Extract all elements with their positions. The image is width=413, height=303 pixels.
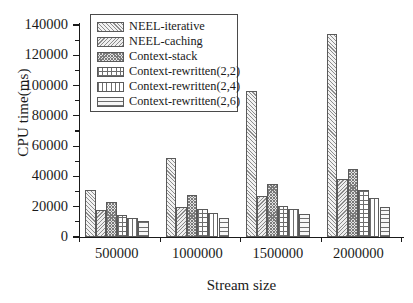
chart-legend: NEEL-iterativeNEEL-cachingContext-stackC…	[90, 14, 238, 112]
legend-label: Context-rewritten(2,2)	[129, 65, 240, 77]
bar-context-stack-500000	[106, 202, 117, 237]
legend-swatch-icon	[97, 52, 124, 62]
bar-context-rewritten-2-4--1500000	[288, 209, 299, 237]
bar-context-rewritten-2-2--1000000	[197, 209, 208, 237]
bar-context-stack-1000000	[187, 195, 198, 237]
legend-swatch-icon	[97, 22, 124, 32]
x-tick-label: 1500000	[252, 245, 303, 262]
bar-neel-iterative-2000000	[327, 34, 338, 237]
bar-context-rewritten-2-4--500000	[127, 218, 138, 237]
legend-label: NEEL-iterative	[129, 20, 205, 32]
legend-swatch-icon	[97, 82, 124, 92]
bar-neel-caching-500000	[96, 210, 107, 237]
y-tick-label: 0	[61, 229, 68, 244]
x-tick	[401, 237, 402, 242]
legend-item-context-rewritten-2-4-[interactable]: Context-rewritten(2,4)	[97, 79, 233, 94]
legend-swatch-icon	[97, 37, 124, 47]
bar-context-rewritten-2-6--2000000	[380, 207, 391, 237]
y-tick-label: 40000	[32, 168, 68, 183]
legend-item-context-rewritten-2-2-[interactable]: Context-rewritten(2,2)	[97, 64, 233, 79]
bar-context-rewritten-2-2--500000	[117, 215, 128, 237]
bar-neel-caching-1000000	[176, 207, 187, 237]
bar-context-rewritten-2-2--2000000	[358, 190, 369, 237]
y-tick-label: 60000	[32, 138, 68, 153]
bar-neel-caching-1500000	[257, 196, 268, 237]
y-tick-label: 20000	[32, 199, 68, 214]
y-tick-label: 120000	[25, 47, 69, 62]
x-tick	[160, 237, 161, 242]
y-tick-label: 100000	[25, 78, 69, 93]
legend-item-context-stack[interactable]: Context-stack	[97, 49, 233, 64]
x-tick-label: 500000	[95, 245, 139, 262]
bar-context-rewritten-2-4--1000000	[208, 213, 219, 237]
legend-item-context-rewritten-2-6-[interactable]: Context-rewritten(2,6)	[97, 94, 233, 109]
bar-context-rewritten-2-6--500000	[138, 221, 149, 237]
x-axis-title: Stream size	[70, 277, 413, 294]
legend-item-neel-caching[interactable]: NEEL-caching	[97, 34, 233, 49]
legend-label: Context-rewritten(2,6)	[129, 95, 240, 107]
x-tick	[321, 237, 322, 242]
bar-context-rewritten-2-2--1500000	[278, 206, 289, 237]
bar-context-rewritten-2-6--1500000	[299, 214, 310, 237]
legend-label: NEEL-caching	[129, 35, 203, 47]
x-tick	[240, 237, 241, 242]
bar-neel-iterative-1500000	[246, 91, 257, 237]
bar-neel-iterative-500000	[85, 190, 96, 237]
x-tick-label: 2000000	[333, 245, 384, 262]
x-tick	[79, 237, 80, 242]
bar-neel-iterative-1000000	[166, 158, 177, 237]
y-tick-label: 80000	[32, 108, 68, 123]
x-tick-label: 1000000	[172, 245, 223, 262]
bar-context-rewritten-2-4--2000000	[369, 198, 380, 237]
bar-context-rewritten-2-6--1000000	[219, 218, 230, 237]
bar-context-stack-1500000	[267, 184, 278, 237]
legend-label: Context-rewritten(2,4)	[129, 80, 240, 92]
legend-label: Context-stack	[129, 50, 197, 62]
legend-swatch-icon	[97, 97, 124, 107]
chart-figure: CPU time(ms) Stream size 020000400006000…	[0, 0, 413, 303]
y-tick-label: 140000	[25, 17, 69, 32]
legend-swatch-icon	[97, 67, 124, 77]
bar-context-stack-2000000	[348, 169, 359, 237]
bar-neel-caching-2000000	[337, 179, 348, 237]
legend-item-neel-iterative[interactable]: NEEL-iterative	[97, 19, 233, 34]
